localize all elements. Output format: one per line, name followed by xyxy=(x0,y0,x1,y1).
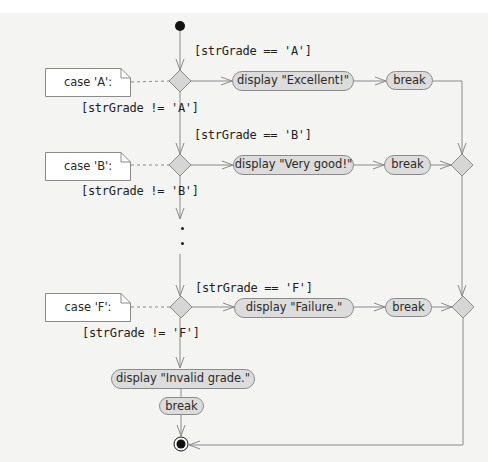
decision-diamond-b xyxy=(169,154,191,176)
case-note-f: case 'F': xyxy=(45,293,131,322)
initial-node xyxy=(175,21,185,31)
merge-diamond-f xyxy=(452,296,474,318)
decision-diamond-f xyxy=(170,296,192,318)
ellipsis-dot xyxy=(181,227,184,230)
action-display-very-good: display "Very good!" xyxy=(233,155,354,175)
action-display-excellent: display "Excellent!" xyxy=(232,71,354,91)
guard-true-a: [strGrade == 'A'] xyxy=(194,44,312,58)
action-display-failure: display "Failure." xyxy=(234,298,354,318)
guard-false-a: [strGrade != 'A'] xyxy=(81,101,199,115)
guard-false-b: [strGrade != 'B'] xyxy=(81,184,199,198)
final-node xyxy=(174,437,188,451)
action-break-b: break xyxy=(384,155,431,175)
case-note-b: case 'B': xyxy=(45,152,131,181)
action-display-invalid-grade: display "Invalid grade." xyxy=(111,369,255,389)
action-break-default: break xyxy=(159,397,204,415)
merge-diamond-b xyxy=(451,154,473,176)
activity-diagram: case 'A': case 'B': case 'F': [strGrade … xyxy=(0,0,492,462)
guard-true-b: [strGrade == 'B'] xyxy=(194,128,312,142)
action-break-a: break xyxy=(386,71,433,90)
action-break-f: break xyxy=(385,298,432,317)
case-note-a: case 'A': xyxy=(45,68,131,97)
decision-diamond-a xyxy=(169,70,191,92)
guard-false-f: [strGrade != 'F'] xyxy=(82,326,200,340)
guard-true-f: [strGrade == 'F'] xyxy=(195,281,313,295)
ellipsis-dot xyxy=(181,242,184,245)
